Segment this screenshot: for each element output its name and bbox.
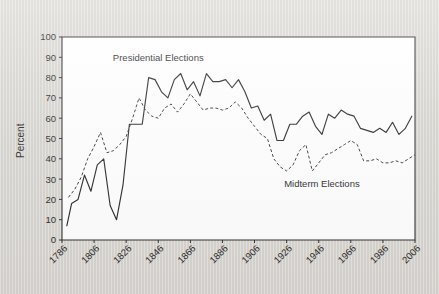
x-tick-label: 1946	[303, 243, 326, 266]
y-axis-title: Percent	[15, 123, 26, 158]
x-tick-label: 2006	[400, 243, 423, 266]
x-axis-tick-labels: 1786180618261846186618861906192619461966…	[47, 243, 423, 266]
x-tick-label: 1906	[239, 243, 262, 266]
x-tick-label: 1986	[368, 243, 391, 266]
x-tick-label: 1786	[47, 243, 70, 266]
x-tick-label: 1866	[175, 243, 198, 266]
x-tick-label: 1806	[79, 243, 102, 266]
y-tick-label: 50	[45, 133, 56, 144]
x-tick-label: 1886	[207, 243, 230, 266]
y-tick-label: 20	[45, 194, 56, 205]
plot-area-background	[62, 37, 415, 240]
y-tick-label: 100	[40, 31, 56, 42]
y-tick-label: 90	[45, 52, 56, 63]
y-tick-label: 30	[45, 174, 56, 185]
series-annotation-label: Presidential Elections	[113, 52, 204, 63]
y-tick-label: 40	[45, 153, 56, 164]
y-axis-tick-labels: 0102030405060708090100	[40, 31, 56, 245]
voter-turnout-line-chart: 0102030405060708090100 17861806182618461…	[0, 0, 439, 294]
y-tick-label: 0	[51, 234, 56, 245]
y-tick-label: 80	[45, 72, 56, 83]
y-tick-label: 60	[45, 113, 56, 124]
y-tick-label: 10	[45, 214, 56, 225]
x-tick-label: 1826	[111, 243, 134, 266]
y-tick-label: 70	[45, 92, 56, 103]
figure-container: 0102030405060708090100 17861806182618461…	[0, 0, 439, 294]
x-tick-label: 1966	[336, 243, 359, 266]
x-tick-label: 1926	[271, 243, 294, 266]
x-tick-label: 1846	[143, 243, 166, 266]
series-annotation-label: Midterm Elections	[284, 178, 360, 189]
